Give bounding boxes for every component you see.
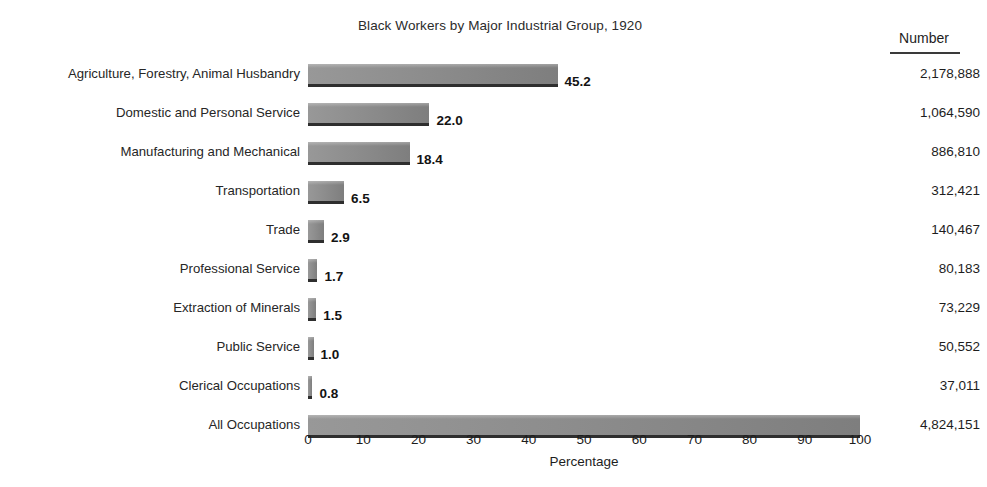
number-value: 73,229 <box>868 300 980 315</box>
bar <box>308 298 316 321</box>
number-value: 80,183 <box>868 261 980 276</box>
x-tick-label: 100 <box>849 432 872 447</box>
category-label: Clerical Occupations <box>0 378 300 393</box>
bar <box>308 337 314 360</box>
number-value: 2,178,888 <box>868 66 980 81</box>
bar-track: 6.5 <box>308 181 860 204</box>
x-tick-label: 10 <box>356 432 371 447</box>
category-label: Trade <box>0 222 300 237</box>
chart-row: Transportation6.5312,421 <box>0 174 987 213</box>
x-tick-label: 80 <box>742 432 757 447</box>
x-tick-label: 30 <box>466 432 481 447</box>
x-tick-label: 20 <box>411 432 426 447</box>
bar-track: 45.2 <box>308 64 860 87</box>
x-tick-label: 60 <box>632 432 647 447</box>
bar-value-label: 1.0 <box>321 347 340 362</box>
bar-track: 1.5 <box>308 298 860 321</box>
number-value: 886,810 <box>868 144 980 159</box>
number-value: 37,011 <box>868 378 980 393</box>
category-label: Transportation <box>0 183 300 198</box>
chart-row: Domestic and Personal Service22.01,064,5… <box>0 96 987 135</box>
chart-row: Public Service1.050,552 <box>0 330 987 369</box>
bar <box>308 103 429 126</box>
number-value: 1,064,590 <box>868 105 980 120</box>
bar <box>308 142 410 165</box>
bar <box>308 220 324 243</box>
bar-value-label: 22.0 <box>436 113 462 128</box>
bar-track: 18.4 <box>308 142 860 165</box>
number-value: 312,421 <box>868 183 980 198</box>
bar-value-label: 6.5 <box>351 191 370 206</box>
chart-title: Black Workers by Major Industrial Group,… <box>300 18 700 33</box>
bar-value-label: 45.2 <box>565 74 591 89</box>
bar-value-label: 1.5 <box>323 308 342 323</box>
x-tick-label: 40 <box>521 432 536 447</box>
x-tick-label: 70 <box>687 432 702 447</box>
number-column-header-rule <box>890 52 960 54</box>
category-label: Domestic and Personal Service <box>0 105 300 120</box>
bar-chart: Black Workers by Major Industrial Group,… <box>0 0 987 487</box>
chart-row: Agriculture, Forestry, Animal Husbandry4… <box>0 57 987 96</box>
bar-track: 1.7 <box>308 259 860 282</box>
category-label: Public Service <box>0 339 300 354</box>
category-label: Agriculture, Forestry, Animal Husbandry <box>0 66 300 81</box>
bar-track: 1.0 <box>308 337 860 360</box>
x-tick-label: 90 <box>797 432 812 447</box>
bar-track: 0.8 <box>308 376 860 399</box>
number-column-header: Number <box>868 30 980 46</box>
category-label: Extraction of Minerals <box>0 300 300 315</box>
bar <box>308 259 317 282</box>
x-tick-label: 50 <box>576 432 591 447</box>
chart-row: Clerical Occupations0.837,011 <box>0 369 987 408</box>
bar-track: 22.0 <box>308 103 860 126</box>
category-label: All Occupations <box>0 417 300 432</box>
number-value: 140,467 <box>868 222 980 237</box>
chart-row: Extraction of Minerals1.573,229 <box>0 291 987 330</box>
bar <box>308 181 344 204</box>
number-value: 4,824,151 <box>868 417 980 432</box>
chart-row: Trade2.9140,467 <box>0 213 987 252</box>
number-value: 50,552 <box>868 339 980 354</box>
bar-value-label: 18.4 <box>417 152 443 167</box>
bar-value-label: 1.7 <box>324 269 343 284</box>
chart-row: Manufacturing and Mechanical18.4886,810 <box>0 135 987 174</box>
bar-value-label: 2.9 <box>331 230 350 245</box>
x-axis: 0102030405060708090100 Percentage <box>308 430 860 470</box>
category-label: Professional Service <box>0 261 300 276</box>
x-tick-label: 0 <box>304 432 312 447</box>
bar-track: 2.9 <box>308 220 860 243</box>
bar <box>308 64 558 87</box>
bar-value-label: 0.8 <box>319 386 338 401</box>
category-label: Manufacturing and Mechanical <box>0 144 300 159</box>
x-axis-title: Percentage <box>308 454 860 469</box>
chart-row: Professional Service1.780,183 <box>0 252 987 291</box>
bar <box>308 376 312 399</box>
